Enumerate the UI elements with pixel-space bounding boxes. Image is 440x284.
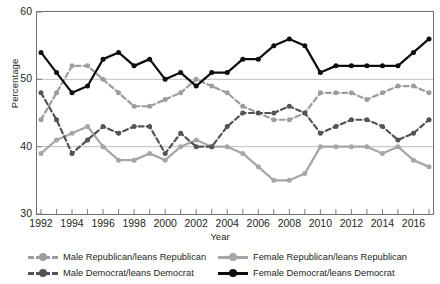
y-tick-label: 60 bbox=[8, 5, 32, 17]
x-tick-label: 2004 bbox=[216, 217, 239, 229]
data-point bbox=[427, 36, 432, 41]
data-point bbox=[333, 90, 338, 95]
data-point bbox=[116, 158, 121, 163]
legend-swatch-icon bbox=[218, 252, 248, 262]
data-point bbox=[318, 90, 323, 95]
data-point bbox=[287, 178, 292, 183]
data-point bbox=[147, 104, 152, 109]
data-point bbox=[132, 124, 137, 129]
data-point bbox=[271, 43, 276, 48]
data-point bbox=[364, 144, 369, 149]
data-point bbox=[256, 111, 261, 116]
x-tick-label: 2002 bbox=[185, 217, 208, 229]
x-axis-title: Year bbox=[0, 231, 440, 242]
data-point bbox=[39, 90, 44, 95]
data-point bbox=[70, 131, 75, 136]
x-tick-label: 1994 bbox=[60, 217, 83, 229]
data-point bbox=[116, 50, 121, 55]
data-point bbox=[333, 144, 338, 149]
data-point bbox=[194, 144, 199, 149]
y-tick-label: 50 bbox=[8, 72, 32, 84]
data-point bbox=[101, 77, 106, 82]
y-axis-tick-labels: 30405060 bbox=[0, 0, 36, 215]
data-point bbox=[85, 63, 90, 68]
data-point bbox=[302, 171, 307, 176]
legend-item[interactable]: Female Democrat/leans Democrat bbox=[218, 268, 395, 278]
data-point bbox=[287, 104, 292, 109]
data-point bbox=[147, 124, 152, 129]
data-point bbox=[39, 50, 44, 55]
data-point bbox=[54, 117, 59, 122]
data-point bbox=[178, 131, 183, 136]
chart-legend: Male Republican/leans RepublicanFemale R… bbox=[0, 252, 440, 284]
data-point bbox=[194, 137, 199, 142]
legend-item[interactable]: Male Republican/leans Republican bbox=[28, 252, 206, 262]
data-point bbox=[349, 90, 354, 95]
x-tick-label: 1998 bbox=[122, 217, 145, 229]
legend-label: Male Democrat/leans Democrat bbox=[63, 268, 194, 278]
data-point bbox=[70, 151, 75, 156]
series-line bbox=[41, 39, 429, 93]
data-point bbox=[163, 97, 168, 102]
data-point bbox=[101, 57, 106, 62]
data-point bbox=[380, 90, 385, 95]
data-point bbox=[364, 63, 369, 68]
legend-swatch-icon bbox=[28, 268, 58, 278]
data-point bbox=[411, 158, 416, 163]
data-point bbox=[364, 117, 369, 122]
data-point bbox=[380, 63, 385, 68]
legend-swatch-icon bbox=[218, 268, 248, 278]
legend-label: Female Republican/leans Republican bbox=[253, 252, 407, 262]
data-point bbox=[302, 111, 307, 116]
data-point bbox=[349, 117, 354, 122]
legend-item[interactable]: Male Democrat/leans Democrat bbox=[28, 268, 194, 278]
data-point bbox=[225, 144, 230, 149]
data-point bbox=[54, 137, 59, 142]
data-point bbox=[256, 57, 261, 62]
data-point bbox=[395, 63, 400, 68]
data-point bbox=[209, 84, 214, 89]
data-point bbox=[395, 137, 400, 142]
data-point bbox=[132, 104, 137, 109]
data-point bbox=[70, 90, 75, 95]
series-line bbox=[41, 66, 429, 120]
data-point bbox=[395, 84, 400, 89]
data-point bbox=[318, 70, 323, 75]
data-point bbox=[85, 84, 90, 89]
data-point bbox=[101, 124, 106, 129]
data-point bbox=[271, 178, 276, 183]
data-point bbox=[225, 90, 230, 95]
data-point bbox=[333, 63, 338, 68]
chart-figure: Percentage 30405060 19921994199619982000… bbox=[0, 0, 440, 284]
legend-item[interactable]: Female Republican/leans Republican bbox=[218, 252, 407, 262]
data-point bbox=[287, 117, 292, 122]
plot-area bbox=[36, 11, 434, 215]
data-point bbox=[225, 70, 230, 75]
series-line bbox=[41, 93, 429, 154]
data-point bbox=[178, 144, 183, 149]
data-point bbox=[85, 137, 90, 142]
legend-swatch-icon bbox=[28, 252, 58, 262]
x-tick-label: 2006 bbox=[247, 217, 270, 229]
data-point bbox=[54, 90, 59, 95]
data-point bbox=[147, 57, 152, 62]
x-tick-label: 2016 bbox=[402, 217, 425, 229]
data-point bbox=[240, 104, 245, 109]
data-point bbox=[380, 124, 385, 129]
x-tick-label: 2008 bbox=[278, 217, 301, 229]
data-point bbox=[271, 117, 276, 122]
data-point bbox=[287, 36, 292, 41]
data-point bbox=[318, 144, 323, 149]
data-point bbox=[349, 144, 354, 149]
x-tick-label: 1992 bbox=[29, 217, 52, 229]
data-point bbox=[132, 63, 137, 68]
data-point bbox=[427, 90, 432, 95]
data-point bbox=[380, 151, 385, 156]
x-tick-label: 2012 bbox=[340, 217, 363, 229]
data-point bbox=[411, 50, 416, 55]
x-tick-label: 2014 bbox=[371, 217, 394, 229]
data-point bbox=[256, 164, 261, 169]
data-point bbox=[364, 97, 369, 102]
data-point bbox=[163, 77, 168, 82]
data-point bbox=[240, 111, 245, 116]
